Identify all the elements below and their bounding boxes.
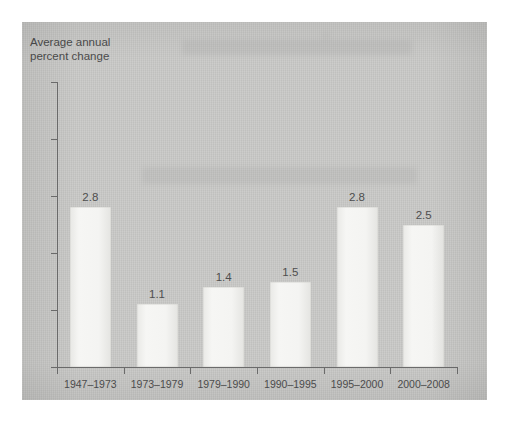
bar-value-label: 1.5 <box>282 266 298 279</box>
x-axis-tick-mark <box>457 367 458 374</box>
y-axis-tick-mark <box>51 196 57 197</box>
x-axis-tick-mark <box>190 367 191 374</box>
bar-chart-plot: Average annual percent change 012345 2.8… <box>22 22 487 400</box>
bar: 1.1 <box>137 304 178 367</box>
bar: 2.8 <box>337 207 378 367</box>
x-axis-category-label: 1979–1990 <box>190 378 257 391</box>
x-axis-tick-mark <box>390 367 391 374</box>
y-axis-tick: 5 <box>22 82 57 83</box>
bar-value-label: 2.5 <box>416 209 432 222</box>
bar-value-label: 2.8 <box>82 191 98 204</box>
x-axis-category-label: 1990–1995 <box>257 378 324 391</box>
y-axis-tick-mark <box>51 82 57 83</box>
y-axis-line <box>57 82 58 368</box>
bar: 2.5 <box>403 225 444 368</box>
y-axis-tick-mark <box>51 310 57 311</box>
x-axis-category-label: 2000–2008 <box>390 378 457 391</box>
bar: 1.4 <box>203 287 244 367</box>
y-axis-tick: 2 <box>22 253 57 254</box>
x-axis-category-label: 1947–1973 <box>57 378 124 391</box>
y-axis-tick-mark <box>51 253 57 254</box>
bar-value-label: 1.4 <box>216 271 232 284</box>
scanned-page: Average annual percent change 012345 2.8… <box>0 0 509 423</box>
y-axis-tick: 0 <box>22 367 57 368</box>
x-axis-tick-mark <box>257 367 258 374</box>
figure-panel: Average annual percent change 012345 2.8… <box>22 22 487 400</box>
bar: 2.8 <box>70 207 111 367</box>
x-axis-tick-mark <box>57 367 58 374</box>
y-axis-tick: 3 <box>22 196 57 197</box>
y-axis-title: Average annual percent change <box>30 35 170 63</box>
x-axis-category-label: 1995–2000 <box>324 378 391 391</box>
y-axis-tick: 1 <box>22 310 57 311</box>
y-axis-tick-mark <box>51 139 57 140</box>
x-axis-tick-mark <box>324 367 325 374</box>
x-axis-tick-mark <box>124 367 125 374</box>
y-axis-tick: 4 <box>22 139 57 140</box>
bar-value-label: 2.8 <box>349 191 365 204</box>
x-axis-category-label: 1973–1979 <box>124 378 191 391</box>
bar-value-label: 1.1 <box>149 288 165 301</box>
bar: 1.5 <box>270 282 311 368</box>
